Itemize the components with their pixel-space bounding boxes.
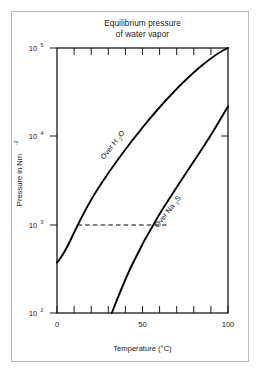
x-tick-label-0: 0 — [55, 320, 59, 329]
figure-container: Equilibrium pressure of water vapor — [0, 0, 264, 374]
y-tick-label-1e3: 10 3 — [29, 219, 44, 230]
plot-axes-frame — [57, 48, 228, 313]
y-axis-ticks-left — [50, 48, 57, 313]
y-tick-1e3-mantissa: 10 — [29, 221, 37, 230]
y-tick-1e4-mantissa: 10 — [29, 132, 37, 141]
curve-over-h2o — [57, 48, 228, 263]
chart-title-line-2: of water vapor — [116, 30, 169, 39]
x-axis-title: Temperature (°C) — [113, 344, 172, 353]
y-tick-1e2-exponent: 2 — [41, 307, 44, 313]
curve-label-over-h2o-group: Over H 2 O — [98, 129, 127, 162]
y-tick-1e2-mantissa: 10 — [29, 309, 37, 318]
y-tick-1e5-exponent: 5 — [41, 42, 44, 48]
y-tick-label-1e2: 10 2 — [29, 307, 44, 318]
y-tick-1e5-mantissa: 10 — [29, 44, 37, 53]
y-tick-label-1e5: 10 5 — [29, 42, 44, 53]
equilibrium-pressure-chart: Equilibrium pressure of water vapor — [0, 0, 264, 374]
curve-label-over-h2o: Over H — [98, 137, 120, 161]
x-tick-label-100: 100 — [222, 320, 235, 329]
chart-title-line-1: Equilibrium pressure — [104, 19, 181, 28]
y-axis-title: Pressure in Nm — [15, 154, 24, 206]
x-tick-label-50: 50 — [138, 320, 146, 329]
x-axis-ticks-bottom — [57, 306, 228, 313]
y-tick-label-1e4: 10 4 — [29, 130, 44, 141]
y-tick-1e3-exponent: 3 — [41, 219, 44, 225]
y-axis-title-exponent: -2 — [13, 140, 19, 145]
x-axis-ticks-top — [74, 48, 211, 55]
y-axis-title-group: Pressure in Nm -2 — [13, 140, 24, 206]
y-tick-1e4-exponent: 4 — [41, 130, 44, 136]
